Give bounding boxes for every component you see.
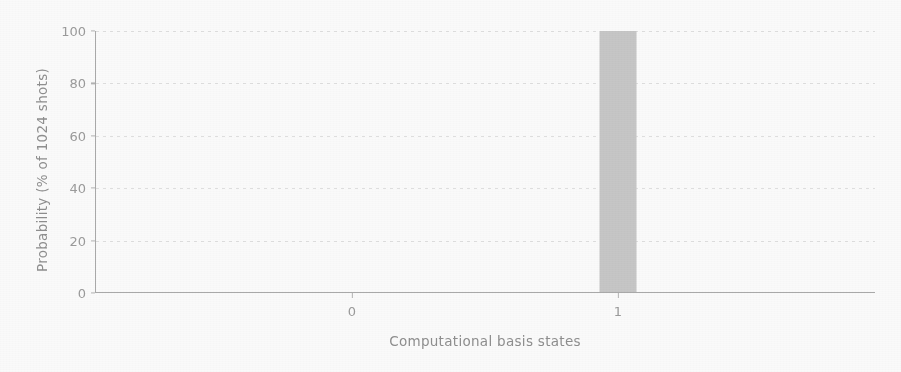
gridline-20 xyxy=(96,241,875,242)
x-tick-mark-1 xyxy=(617,293,618,298)
y-axis-label: Probability (% of 1024 shots) xyxy=(34,30,50,310)
gridline-80 xyxy=(96,83,875,84)
x-tick-label-1: 1 xyxy=(614,304,622,319)
y-tick-label-40: 40 xyxy=(69,181,86,196)
y-tick-label-20: 20 xyxy=(69,233,86,248)
gridline-100 xyxy=(96,31,875,32)
y-tick-label-100: 100 xyxy=(61,24,86,39)
y-tick-label-60: 60 xyxy=(69,128,86,143)
x-tick-mark-0 xyxy=(351,293,352,298)
x-axis-spine xyxy=(95,292,875,293)
gridline-60 xyxy=(96,136,875,137)
x-axis-label: Computational basis states xyxy=(95,333,875,349)
x-tick-0: 0 xyxy=(348,293,356,319)
bar-state-1[interactable] xyxy=(600,31,637,292)
gridline-40 xyxy=(96,188,875,189)
y-tick-label-0: 0 xyxy=(78,286,86,301)
y-tick-label-80: 80 xyxy=(69,76,86,91)
bar-chart-figure: Probability (% of 1024 shots) 100 80 60 … xyxy=(0,0,901,372)
plot-area: 100 80 60 40 20 0 0 1 xyxy=(95,31,875,293)
y-axis-spine xyxy=(95,31,96,293)
x-tick-label-0: 0 xyxy=(348,304,356,319)
x-tick-1: 1 xyxy=(614,293,622,319)
